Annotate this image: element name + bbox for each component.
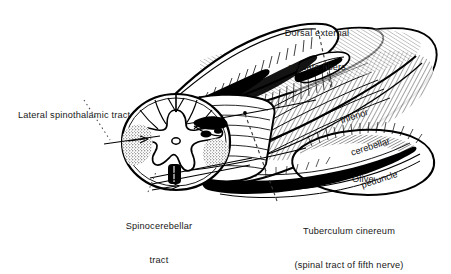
label-dorsal-external-arcuate-fibers: Dorsal external arcuate fibers	[258, 6, 376, 84]
label-dorsal-external-arcuate-fibers-line2: arcuate fibers	[258, 62, 376, 73]
label-olive: Olive	[352, 152, 374, 197]
label-inferior-cerebellar-peduncle-line1: Inferior	[339, 103, 381, 126]
tuberculum-cinereum-anchor-dot	[243, 111, 247, 115]
label-spinocerebellar-tract-line2: tract	[104, 255, 214, 266]
label-tuberculum-cinereum-line1: Tuberculum cinereum	[262, 226, 436, 237]
label-spinocerebellar-tract: Spinocerebellar tract	[104, 199, 214, 274]
label-olive-line1: Olive	[352, 174, 374, 185]
label-spinocerebellar-tract-line1: Spinocerebellar	[104, 221, 214, 232]
label-lateral-spinothalamic-tract-line1: Lateral spinothalamic tract	[18, 110, 168, 121]
label-dorsal-external-arcuate-fibers-line1: Dorsal external	[258, 28, 376, 39]
label-tuberculum-cinereum: Tuberculum cinereum (spinal tract of fif…	[262, 204, 436, 274]
label-lateral-spinothalamic-tract: Lateral spinothalamic tract	[18, 88, 168, 133]
label-tuberculum-cinereum-line2: (spinal tract of fifth nerve)	[262, 260, 436, 271]
